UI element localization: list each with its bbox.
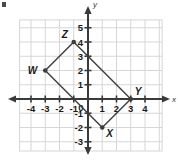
coordinate-plane: -4-3-2-1123454321-1-2-30 xy WZYX — [0, 0, 178, 161]
vertex-point-y — [128, 97, 133, 102]
y-tick-label: 1 — [78, 79, 84, 90]
y-axis-name: y — [92, 0, 98, 9]
vertex-label-y: Y — [135, 86, 143, 97]
vertex-label-x: X — [105, 128, 114, 139]
y-tick-label: 2 — [78, 65, 83, 76]
x-tick-label: -3 — [41, 103, 49, 114]
vertex-label-z: Z — [61, 29, 69, 40]
x-tick-label: 1 — [100, 103, 106, 114]
x-tick-label: -4 — [27, 103, 36, 114]
y-tick-label: 5 — [78, 22, 84, 33]
vertex-point-z — [71, 40, 76, 45]
vertex-label-w: W — [28, 65, 39, 76]
x-tick-label: -2 — [55, 103, 63, 114]
x-axis-name: x — [171, 95, 177, 104]
figure-canvas: -4-3-2-1123454321-1-2-30 xy WZYX — [0, 0, 178, 161]
y-tick-label: -2 — [75, 122, 83, 133]
vertex-point-x — [100, 125, 105, 130]
x-tick-label: 3 — [128, 103, 133, 114]
x-tick-label: 4 — [142, 103, 148, 114]
y-tick-label: -3 — [75, 136, 83, 147]
y-tick-label: 3 — [78, 51, 83, 62]
vertex-point-w — [43, 68, 48, 73]
